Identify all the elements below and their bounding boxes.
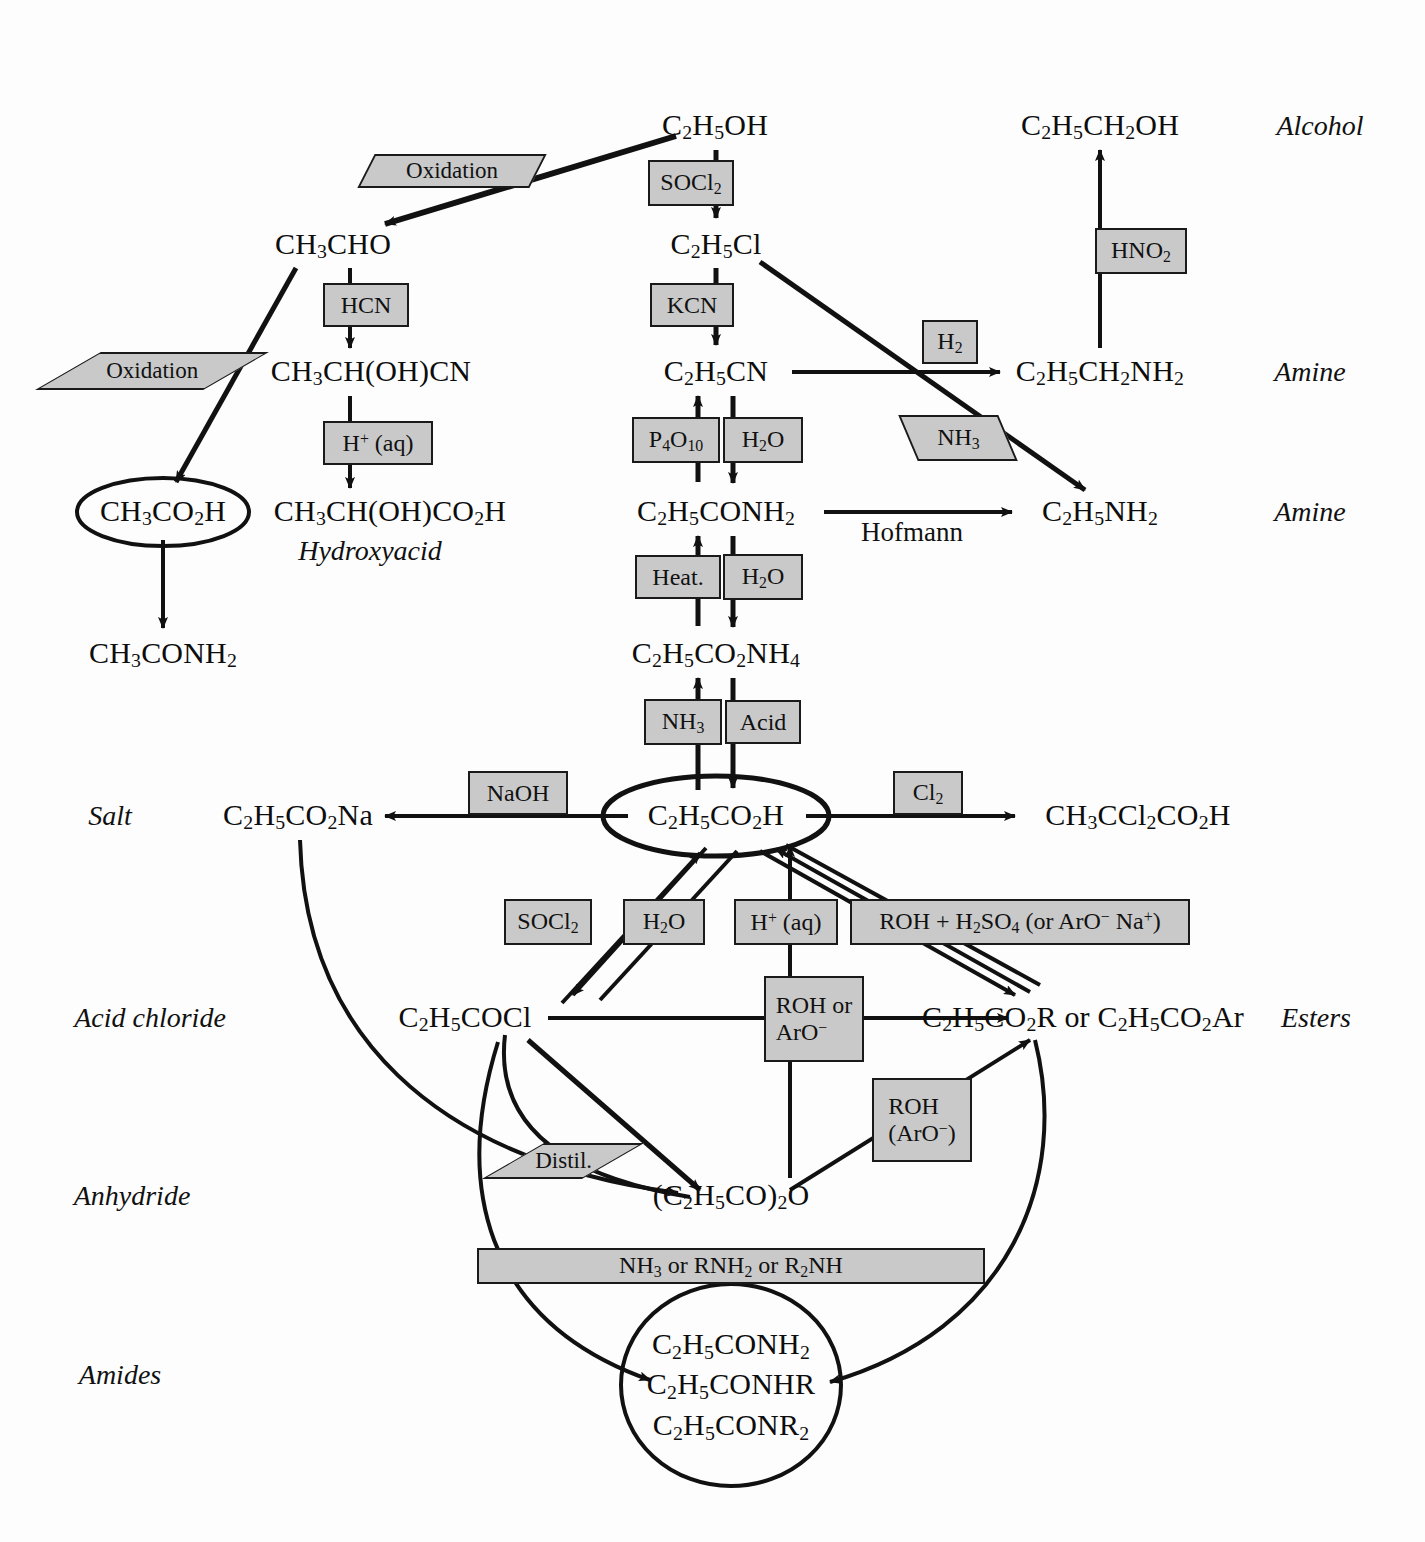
- node-amides[interactable]: C2H5CONH2C2H5CONHRC2H5CONR2: [647, 1325, 815, 1446]
- label-hofmann: Hofmann: [861, 517, 963, 548]
- node-ethylamine[interactable]: C2H5NH2: [1042, 494, 1158, 531]
- reagent-box-roh-h2so4[interactable]: ROH + H2SO4 (or ArO− Na+): [850, 899, 1190, 945]
- category-label-anhydride: Anhydride: [74, 1180, 191, 1212]
- reagent-box-nh3-salt[interactable]: NH3: [644, 699, 722, 745]
- node-acetamide[interactable]: CH3CONH2: [89, 636, 237, 673]
- node-propanenitrile[interactable]: C2H5CN: [664, 354, 768, 391]
- reagent-box-h2o-amide[interactable]: H2O: [723, 554, 803, 600]
- node-chloroethane[interactable]: C2H5Cl: [670, 227, 761, 264]
- node-dichloro-acid[interactable]: CH3CCl2CO2H: [1045, 798, 1230, 835]
- reagent-box-h2o-hydrolysis[interactable]: H2O: [623, 899, 705, 945]
- reagent-box-h-plus-aq-2[interactable]: H+ (aq): [734, 899, 838, 945]
- node-propylamine[interactable]: C2H5CH2NH2: [1016, 354, 1184, 391]
- node-propanamide[interactable]: C2H5CONH2: [637, 494, 795, 531]
- category-label-salt: Salt: [88, 800, 132, 832]
- reagent-box-h2o-nitrile[interactable]: H2O: [723, 417, 803, 463]
- node-acetic-acid[interactable]: CH3CO2H: [100, 494, 226, 531]
- node-lactic-acid[interactable]: CH3CH(OH)CO2H: [274, 494, 506, 531]
- reagent-box-oxidation-left[interactable]: Oxidation: [35, 352, 269, 390]
- reagent-box-nh3-hofmann-path[interactable]: NH3: [898, 415, 1018, 461]
- reagent-box-hno2[interactable]: HNO2: [1095, 228, 1187, 274]
- reagent-box-oxidation-top[interactable]: Oxidation: [357, 154, 546, 188]
- node-esters[interactable]: C2H5CO2R or C2H5CO2Ar: [922, 1000, 1244, 1037]
- node-ethanol[interactable]: C2H5OH: [662, 108, 768, 145]
- node-cyanohydrin[interactable]: CH3CH(OH)CN: [271, 354, 471, 391]
- category-label-acid-chloride: Acid chloride: [74, 1002, 226, 1034]
- reagent-box-acid[interactable]: Acid: [725, 700, 801, 744]
- reagent-box-socl2-top[interactable]: SOCl2: [648, 160, 734, 206]
- category-label-alcohol: Alcohol: [1276, 110, 1363, 142]
- node-sodium-propanoate[interactable]: C2H5CO2Na: [223, 798, 373, 835]
- reagent-box-heat[interactable]: Heat.: [635, 555, 721, 599]
- category-label-hydroxyacid: Hydroxyacid: [298, 535, 442, 567]
- reagent-box-socl2-bottom[interactable]: SOCl2: [504, 899, 592, 945]
- category-label-amine-ethyl: Amine: [1274, 496, 1346, 528]
- node-propanoic-acid[interactable]: C2H5CO2H: [648, 798, 784, 835]
- reagent-box-distil[interactable]: Distil.: [482, 1143, 644, 1179]
- node-anhydride[interactable]: (C2H5CO)2O: [653, 1178, 810, 1215]
- reagent-box-cl2[interactable]: Cl2: [893, 771, 963, 815]
- reagent-box-roh-aro-anhydride[interactable]: ROH(ArO−): [872, 1078, 972, 1162]
- reagent-box-h-plus-aq-1[interactable]: H+ (aq): [323, 421, 433, 465]
- reaction-flowchart-page: Oxidation SOCl2 HNO2 HCN KCN Oxidation H…: [0, 0, 1425, 1542]
- node-acetaldehyde[interactable]: CH3CHO: [275, 227, 391, 264]
- node-acid-chloride[interactable]: C2H5COCl: [398, 1000, 531, 1037]
- reagent-box-p4o10[interactable]: P4O10: [632, 417, 720, 463]
- node-propan-1-ol[interactable]: C2H5CH2OH: [1021, 108, 1179, 145]
- reagent-box-hcn[interactable]: HCN: [323, 283, 409, 327]
- reagent-box-roh-or-aro[interactable]: ROH orArO−: [764, 976, 864, 1062]
- category-label-amine-primary: Amine: [1274, 356, 1346, 388]
- reagent-box-kcn[interactable]: KCN: [650, 283, 734, 327]
- reagent-box-h2[interactable]: H2: [922, 320, 978, 364]
- category-label-amides: Amides: [79, 1359, 161, 1391]
- reagent-box-nh3-rnh2-r2nh[interactable]: NH3 or RNH2 or R2NH: [477, 1248, 985, 1284]
- reagent-box-naoh[interactable]: NaOH: [468, 771, 568, 815]
- category-label-esters: Esters: [1281, 1002, 1351, 1034]
- node-ammonium-propanoate[interactable]: C2H5CO2NH4: [632, 636, 800, 673]
